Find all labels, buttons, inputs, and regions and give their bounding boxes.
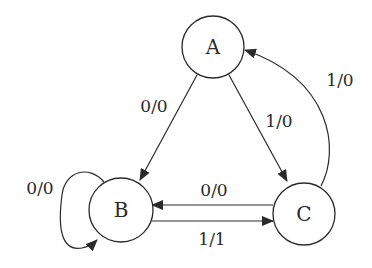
label-c-to-a: 1/0 [326, 70, 353, 90]
label-b-to-c: 1/1 [198, 229, 225, 249]
state-b-label: B [114, 198, 129, 222]
state-c: C [273, 183, 335, 245]
label-a-to-c: 1/0 [265, 111, 292, 131]
diagram-svg: A B C 0/0 1/0 1/0 0/0 0/0 1/1 [0, 0, 372, 268]
state-a-label: A [205, 35, 221, 59]
label-a-to-b: 0/0 [140, 96, 167, 116]
state-b: B [89, 178, 153, 242]
state-c-label: C [296, 202, 311, 226]
state-diagram: A B C 0/0 1/0 1/0 0/0 0/0 1/1 [0, 0, 372, 268]
state-a: A [182, 16, 244, 78]
edge-a-to-b [140, 75, 197, 180]
label-c-to-b: 0/0 [200, 180, 227, 200]
label-b-self-loop: 0/0 [26, 178, 53, 198]
